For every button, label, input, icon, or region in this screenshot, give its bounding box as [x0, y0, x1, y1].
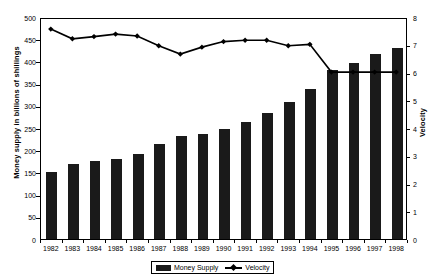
x-tick-mark: [234, 240, 235, 243]
x-tick-mark: [277, 240, 278, 243]
y-tick-label-left: 250: [6, 126, 36, 133]
velocity-marker: [242, 38, 247, 43]
x-tick-label: 1986: [126, 245, 148, 252]
legend-label-money-supply: Money Supply: [174, 264, 218, 272]
velocity-marker: [70, 36, 75, 41]
x-tick-label: 1993: [277, 245, 299, 252]
y-tick-label-right: 6: [413, 70, 431, 77]
y-tick-label-right: 4: [413, 126, 431, 133]
x-tick-mark: [62, 240, 63, 243]
x-tick-mark: [170, 240, 171, 243]
y-tick-label-left: 200: [6, 148, 36, 155]
x-tick-label: 1985: [105, 245, 127, 252]
x-tick-label: 1995: [321, 245, 343, 252]
x-tick-label: 1992: [256, 245, 278, 252]
y-tick-label-left: 150: [6, 170, 36, 177]
x-tick-mark: [256, 240, 257, 243]
x-tick-label: 1990: [213, 245, 235, 252]
velocity-marker: [394, 69, 399, 74]
x-tick-label: 1989: [191, 245, 213, 252]
velocity-marker: [178, 51, 183, 56]
legend-item-money-supply: Money Supply: [156, 264, 218, 272]
y-tick-label-left: 0: [6, 237, 36, 244]
y-tick-label-right: 0: [413, 237, 431, 244]
x-tick-label: 1998: [385, 245, 407, 252]
x-tick-mark: [126, 240, 127, 243]
x-tick-label: 1991: [234, 245, 256, 252]
x-tick-label: 1997: [364, 245, 386, 252]
x-tick-mark: [407, 240, 408, 243]
x-tick-mark: [148, 240, 149, 243]
y-tick-label-right: 8: [413, 15, 431, 22]
x-tick-mark: [321, 240, 322, 243]
x-tick-mark: [385, 240, 386, 243]
money-supply-velocity-chart: Money supply in billions of shillings Ve…: [0, 0, 431, 280]
x-tick-mark: [105, 240, 106, 243]
y-tick-label-right: 1: [413, 209, 431, 216]
x-tick-label: 1988: [170, 245, 192, 252]
legend-label-velocity: Velocity: [245, 264, 269, 272]
x-tick-mark: [191, 240, 192, 243]
y-tick-label-left: 300: [6, 103, 36, 110]
x-tick-mark: [342, 240, 343, 243]
x-tick-mark: [40, 240, 41, 243]
velocity-marker: [48, 26, 53, 31]
velocity-marker: [156, 43, 161, 48]
x-tick-label: 1982: [40, 245, 62, 252]
x-tick-label: 1984: [83, 245, 105, 252]
y-tick-label-left: 500: [6, 15, 36, 22]
x-tick-label: 1983: [62, 245, 84, 252]
y-tick-label-right: 2: [413, 181, 431, 188]
velocity-marker: [286, 43, 291, 48]
line-diamond-swatch-icon: [225, 264, 242, 271]
y-tick-label-right: 5: [413, 98, 431, 105]
velocity-marker: [134, 33, 139, 38]
velocity-marker: [350, 69, 355, 74]
y-tick-label-left: 350: [6, 81, 36, 88]
velocity-marker: [113, 31, 118, 36]
chart-legend: Money Supply Velocity: [151, 261, 274, 274]
velocity-marker: [264, 38, 269, 43]
velocity-markers: [48, 26, 399, 74]
x-tick-label: 1994: [299, 245, 321, 252]
x-tick-label: 1987: [148, 245, 170, 252]
y-tick-label-left: 50: [6, 214, 36, 221]
x-tick-mark: [213, 240, 214, 243]
x-tick-mark: [299, 240, 300, 243]
line-series-velocity: [40, 18, 407, 240]
y-tick-label-right: 3: [413, 153, 431, 160]
x-tick-label: 1996: [342, 245, 364, 252]
bar-swatch-icon: [156, 265, 171, 271]
y-tick-label-left: 400: [6, 59, 36, 66]
x-tick-mark: [364, 240, 365, 243]
velocity-marker: [199, 44, 204, 49]
velocity-polyline: [51, 29, 396, 72]
velocity-marker: [91, 34, 96, 39]
velocity-marker: [372, 69, 377, 74]
legend-item-velocity: Velocity: [225, 264, 269, 272]
y-tick-label-left: 100: [6, 192, 36, 199]
x-tick-mark: [83, 240, 84, 243]
velocity-marker: [221, 39, 226, 44]
y-tick-label-left: 450: [6, 37, 36, 44]
y-tick-label-right: 7: [413, 42, 431, 49]
